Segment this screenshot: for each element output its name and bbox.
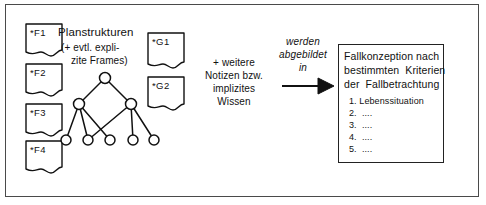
- plan-note-label-F3: *F3: [30, 107, 46, 118]
- plan-structures-subtitle-line2: zite Frames): [71, 55, 128, 67]
- mapping-arrow: [282, 78, 334, 94]
- plan-structures-subtitle-line1: (+ evtl. expli-: [61, 42, 119, 54]
- goal-note-label-G1: *G1: [152, 36, 170, 47]
- plan-note-label-F4: *F4: [30, 144, 46, 155]
- additional-knowledge-line2: Notizen bzw.: [196, 70, 272, 82]
- result-list-item: 2. ....: [349, 108, 372, 118]
- graph-node-leaf1: [61, 135, 71, 145]
- graph-node-root: [100, 73, 111, 84]
- additional-knowledge-line3: implizites: [196, 83, 272, 95]
- result-heading-line3: der Fallbetrachtung: [344, 78, 439, 90]
- arrow-caption-line3: in: [272, 62, 334, 74]
- result-heading-line2: bestimmten Kriterien: [344, 64, 445, 76]
- plan-structures-title: Planstrukturen: [58, 26, 134, 39]
- arrow-caption-line1: werden: [272, 36, 334, 48]
- graph-node-midL: [74, 99, 85, 110]
- result-heading-line1: Fallkonzeption nach: [344, 50, 439, 62]
- result-list-item: 5. ....: [349, 144, 372, 154]
- graph-node-leaf5: [149, 135, 159, 145]
- graph-node-leaf3: [105, 135, 115, 145]
- figure-root: *F1 *F2 *F3 *F4 *G1 *G2 Planstrukturen (…: [0, 0, 486, 205]
- plan-note-label-F1: *F1: [30, 27, 46, 38]
- result-list-item: 3. ....: [349, 120, 372, 130]
- arrow-caption-line2: abgebildet: [272, 49, 334, 61]
- result-list-item: 1. Lebenssituation: [349, 96, 424, 106]
- graph-node-midR: [126, 99, 137, 110]
- graph-node-leaf4: [128, 135, 138, 145]
- goal-note-label-G2: *G2: [152, 80, 170, 91]
- additional-knowledge-line1: + weitere: [196, 57, 272, 69]
- plan-note-label-F2: *F2: [30, 67, 46, 78]
- graph-node-leaf2: [83, 135, 93, 145]
- result-list-item: 4. ....: [349, 132, 372, 142]
- additional-knowledge-line4: Wissen: [196, 96, 272, 108]
